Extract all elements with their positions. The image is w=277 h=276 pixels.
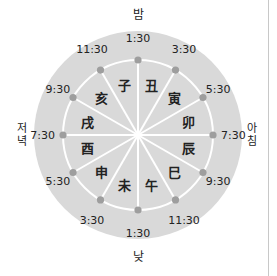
time-label: 9:30 (46, 83, 71, 96)
time-dot (172, 196, 179, 203)
time-label: 5:30 (46, 175, 71, 188)
branch-label: 戌 (81, 115, 94, 130)
time-dot (134, 206, 141, 213)
direction-label-bottom: 낮 (133, 250, 144, 264)
branch-label: 申 (95, 165, 108, 180)
svg-text:아: 아 (247, 122, 257, 135)
time-label: 1:30 (126, 32, 151, 45)
branch-label: 酉 (81, 141, 94, 156)
page-edge-divider (268, 0, 269, 276)
branch-label: 丑 (145, 78, 158, 93)
branch-label: 亥 (95, 91, 108, 106)
direction-label-top: 밤 (133, 8, 144, 22)
time-label: 1:30 (126, 227, 151, 240)
time-label: 9:30 (206, 175, 231, 188)
time-dot (69, 94, 76, 101)
svg-text:침: 침 (247, 135, 257, 148)
branch-clock-diagram: 1:303:305:307:309:3011:301:303:305:307:3… (0, 0, 277, 276)
time-dot (97, 66, 104, 73)
branch-label: 子 (118, 78, 131, 93)
branch-label: 卯 (182, 115, 195, 130)
branch-label: 未 (117, 178, 132, 193)
svg-text:저: 저 (17, 122, 27, 135)
svg-text:녁: 녁 (17, 135, 27, 148)
time-label: 7:30 (30, 129, 55, 142)
time-label: 7:30 (221, 129, 246, 142)
time-dot (134, 56, 141, 63)
time-label: 3:30 (80, 214, 105, 227)
time-label: 3:30 (172, 43, 197, 56)
time-dot (97, 196, 104, 203)
time-dot (172, 66, 179, 73)
branch-label: 辰 (182, 141, 196, 156)
time-dot (59, 131, 66, 138)
time-dot (209, 131, 216, 138)
direction-label-left: 저 녁 (17, 122, 27, 148)
time-label: 5:30 (206, 83, 231, 96)
time-label: 11:30 (76, 43, 108, 56)
branch-label: 寅 (168, 91, 181, 106)
branch-label: 巳 (168, 165, 181, 180)
time-label: 11:30 (168, 214, 200, 227)
time-dot (69, 169, 76, 176)
branch-label: 午 (145, 178, 158, 193)
clock-svg: 1:303:305:307:309:3011:301:303:305:307:3… (0, 0, 277, 276)
direction-label-right: 아 침 (247, 122, 257, 148)
